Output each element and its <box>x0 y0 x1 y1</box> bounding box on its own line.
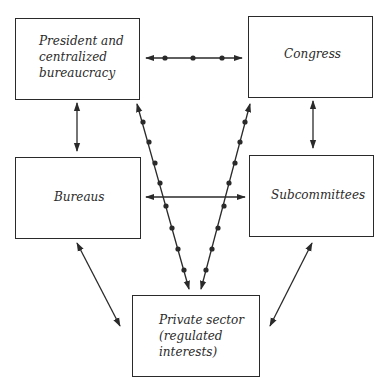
node-private-sector: Private sector (regulated interests) <box>132 295 260 377</box>
edge-president-congress <box>146 55 242 60</box>
node-subcommittees: Subcommittees <box>249 155 374 237</box>
node-congress-label: Congress <box>284 46 341 62</box>
edge-bureaus-private-sector <box>77 243 120 326</box>
node-private-sector-label: Private sector (regulated interests) <box>159 312 244 360</box>
node-subcommittees-label: Subcommittees <box>271 187 365 203</box>
node-president-label: President and centralized bureaucracy <box>39 33 124 81</box>
node-president: President and centralized bureaucracy <box>15 18 140 100</box>
node-bureaus-label: Bureaus <box>54 189 104 205</box>
node-congress: Congress <box>248 16 373 98</box>
edge-subcommittees-private-sector <box>270 243 312 326</box>
policy-relations-diagram: President and centralized bureaucracy Co… <box>0 0 387 390</box>
node-bureaus: Bureaus <box>15 157 141 239</box>
